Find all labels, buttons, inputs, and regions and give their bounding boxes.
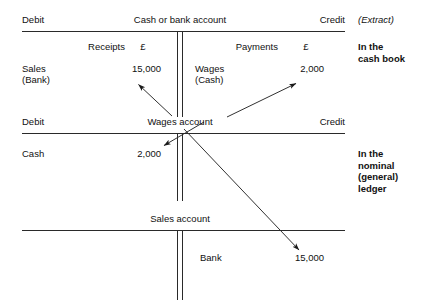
wages-account-debit-entry-narrative-1: Cash: [22, 148, 44, 159]
sales-account-title: Sales account: [118, 213, 242, 224]
cash-account-center-divider: [177, 31, 183, 117]
cash-account-title: Cash or bank account: [110, 14, 250, 25]
arrow-cashbook-to-sales-credit: [184, 129, 299, 250]
sales-account-center-divider: [177, 230, 183, 300]
arrow-wages-to-cashbook-credit: [227, 84, 296, 118]
cash-account-debit-entry-narrative-2: (Bank): [22, 74, 50, 85]
wages-account-debit-entry-amount: 2,000: [95, 148, 161, 159]
arrow-wages-to-cashbook-debit: [139, 85, 173, 117]
sales-account-credit-entry-narrative-1: Bank: [200, 252, 222, 263]
accounting-diagram: Debit Cash or bank account Credit Receip…: [0, 0, 437, 301]
cash-account-debit-label: Debit: [22, 14, 44, 25]
cash-account-debit-entry-amount: 15,000: [95, 63, 161, 74]
sales-account-credit-entry-amount: 15,000: [258, 252, 324, 263]
cash-account-rule: [22, 31, 345, 32]
cash-account-debit-column-heading: Receipts: [40, 41, 125, 52]
wages-account-rule: [22, 133, 345, 134]
annotation-cash-book: In the cash book: [358, 41, 405, 64]
cash-account-credit-entry-narrative-2: (Cash): [195, 74, 224, 85]
wages-account-debit-label: Debit: [22, 116, 44, 127]
extract-note: (Extract): [358, 14, 394, 25]
cash-account-credit-currency-heading: £: [288, 41, 324, 52]
annotation-nominal-ledger: In the nominal (general) ledger: [358, 148, 398, 194]
sales-account-rule: [22, 230, 345, 231]
cash-account-credit-column-heading: Payments: [195, 41, 278, 52]
wages-account-credit-label: Credit: [265, 116, 345, 127]
wages-account-center-divider: [177, 133, 183, 201]
wages-account-title: Wages account: [118, 116, 242, 127]
cash-account-debit-entry-narrative-1: Sales: [22, 63, 46, 74]
cash-account-credit-entry-narrative-1: Wages: [195, 63, 224, 74]
cash-account-credit-label: Credit: [265, 14, 345, 25]
cash-account-credit-entry-amount: 2,000: [258, 63, 324, 74]
cash-account-debit-currency-heading: £: [125, 41, 161, 52]
